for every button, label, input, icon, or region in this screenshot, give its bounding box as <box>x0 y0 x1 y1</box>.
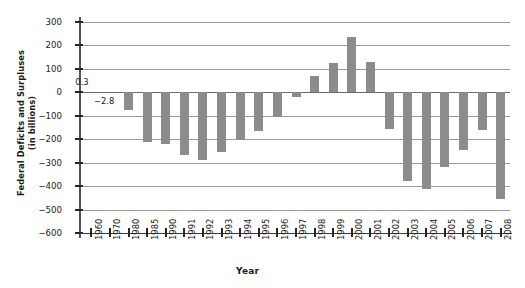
x-tick-label-1998: 1998 <box>318 219 326 240</box>
x-tick-label-1992: 1992 <box>206 219 214 240</box>
y-tick-label-100: 100 <box>18 65 62 74</box>
bar-1980[interactable] <box>124 92 133 109</box>
x-tick-label-1990: 1990 <box>169 219 177 240</box>
y-tick-mark-200 <box>75 44 83 46</box>
bar-1991[interactable] <box>180 92 189 155</box>
bar-1999[interactable] <box>329 63 338 93</box>
y-tick-mark-300 <box>75 21 83 23</box>
x-tick-mark-2007 <box>481 228 483 237</box>
y-tick-mark-100 <box>75 68 83 70</box>
y-tick-mark--200 <box>75 138 83 140</box>
x-tick-mark-2000 <box>351 228 353 237</box>
x-tick-label-1991: 1991 <box>188 219 196 240</box>
bar-2005[interactable] <box>440 92 449 167</box>
gridline-100 <box>82 69 510 70</box>
y-tick-mark--500 <box>75 209 83 211</box>
x-tick-mark-2002 <box>388 228 390 237</box>
y-tick-mark--300 <box>75 162 83 164</box>
x-tick-mark-1990 <box>165 228 167 237</box>
y-tick-label--300: −300 <box>18 159 62 168</box>
x-tick-mark-1994 <box>239 228 241 237</box>
x-axis-title: Year <box>236 266 259 276</box>
bar-1992[interactable] <box>198 92 207 160</box>
x-tick-mark-2005 <box>444 228 446 237</box>
x-tick-label-2002: 2002 <box>392 219 400 240</box>
y-tick-mark--100 <box>75 115 83 117</box>
y-tick-label--500: −500 <box>18 206 62 215</box>
gridline-200 <box>82 45 510 46</box>
x-tick-mark-2004 <box>425 228 427 237</box>
y-tick-label--600: −600 <box>18 229 62 238</box>
federal-deficits-bar-chart: Federal Deficits and Surpluses (in billi… <box>0 0 525 288</box>
y-tick-label--200: −200 <box>18 135 62 144</box>
x-tick-mark-1970 <box>109 228 111 237</box>
y-tick-label-200: 200 <box>18 41 62 50</box>
bar-2006[interactable] <box>459 92 468 150</box>
x-tick-label-1999: 1999 <box>337 219 345 240</box>
bar-2000[interactable] <box>347 37 356 92</box>
plot-area: 3002001000−100−200−300−400−500−600 0.3−2… <box>82 22 510 233</box>
x-tick-label-2001: 2001 <box>374 219 382 240</box>
y-tick-label-0: 0 <box>18 88 62 97</box>
y-tick-mark--400 <box>75 185 83 187</box>
x-tick-mark-1996 <box>276 228 278 237</box>
x-tick-mark-1980 <box>128 228 130 237</box>
x-tick-mark-2008 <box>500 228 502 237</box>
x-tick-mark-2001 <box>369 228 371 237</box>
x-tick-mark-2003 <box>407 228 409 237</box>
x-tick-mark-1985 <box>146 228 148 237</box>
x-tick-mark-1998 <box>314 228 316 237</box>
bar-1996[interactable] <box>273 92 282 117</box>
bar-2007[interactable] <box>478 92 487 130</box>
x-tick-mark-1997 <box>295 228 297 237</box>
x-tick-label-1985: 1985 <box>151 219 159 240</box>
bar-2008[interactable] <box>496 92 505 199</box>
x-tick-label-1995: 1995 <box>262 219 270 240</box>
x-tick-label-2000: 2000 <box>355 219 363 240</box>
x-tick-mark-1993 <box>221 228 223 237</box>
y-tick-label--100: −100 <box>18 112 62 121</box>
x-tick-mark-1999 <box>332 228 334 237</box>
bar-2002[interactable] <box>385 92 394 129</box>
bar-2001[interactable] <box>366 62 375 92</box>
x-tick-label-2003: 2003 <box>411 219 419 240</box>
x-tick-mark-1960 <box>90 228 92 237</box>
y-tick-mark-0 <box>75 91 83 93</box>
x-tick-label-2005: 2005 <box>448 219 456 240</box>
x-tick-label-1996: 1996 <box>281 219 289 240</box>
bar-1997[interactable] <box>292 92 301 97</box>
y-tick-label-300: 300 <box>18 18 62 27</box>
gridline--400 <box>82 186 510 187</box>
bar-1990[interactable] <box>161 92 170 144</box>
x-tick-label-2007: 2007 <box>485 219 493 240</box>
x-tick-label-2004: 2004 <box>430 219 438 240</box>
x-tick-label-1994: 1994 <box>244 219 252 240</box>
y-axis-line <box>79 17 81 238</box>
value-label-1970: −2.8 <box>94 96 114 106</box>
x-tick-label-2006: 2006 <box>467 219 475 240</box>
x-tick-mark-1992 <box>202 228 204 237</box>
bar-1998[interactable] <box>310 76 319 92</box>
value-label-1960: 0.3 <box>75 77 88 87</box>
x-tick-mark-2006 <box>462 228 464 237</box>
bar-1994[interactable] <box>236 92 245 140</box>
bar-2003[interactable] <box>403 92 412 181</box>
x-tick-label-1980: 1980 <box>132 219 140 240</box>
gridline-300 <box>82 22 510 23</box>
x-tick-label-1993: 1993 <box>225 219 233 240</box>
x-tick-mark-1991 <box>183 228 185 237</box>
x-tick-label-1997: 1997 <box>299 219 307 240</box>
bar-1995[interactable] <box>254 92 263 130</box>
bar-1985[interactable] <box>143 92 152 142</box>
bar-2004[interactable] <box>422 92 431 189</box>
gridline--500 <box>82 210 510 211</box>
x-tick-label-2008: 2008 <box>504 219 512 240</box>
y-tick-label--400: −400 <box>18 182 62 191</box>
x-tick-mark-1995 <box>258 228 260 237</box>
x-tick-label-1960: 1960 <box>95 219 103 240</box>
x-tick-label-1970: 1970 <box>113 219 121 240</box>
bar-1993[interactable] <box>217 92 226 152</box>
